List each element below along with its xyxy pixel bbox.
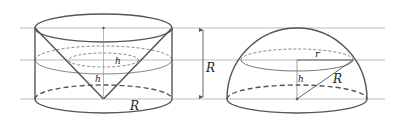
- slant-radius-line: [297, 60, 353, 99]
- hemisphere-center: [296, 98, 298, 100]
- label-slant-R: R: [332, 72, 342, 86]
- diagram-canvas: h h R R r h R: [0, 0, 404, 130]
- cylinder-top-center: [103, 27, 105, 29]
- hemisphere-base-front-arc: [227, 99, 367, 113]
- cone-left-edge: [35, 28, 104, 99]
- guide-lines: [20, 28, 385, 99]
- cylinder-figure: [35, 14, 172, 113]
- label-height-R: R: [205, 61, 215, 75]
- label-h-lower: h: [95, 74, 101, 84]
- cylinder-bottom-front-arc: [35, 99, 172, 113]
- hemisphere-section-back-arc: [241, 49, 353, 60]
- label-hemisphere-h: h: [298, 74, 304, 84]
- hemisphere-figure: [227, 28, 367, 113]
- cone-right-edge: [104, 28, 173, 99]
- diagram-svg: h h R R r h R: [0, 0, 404, 130]
- label-cylinder-radius: R: [129, 99, 139, 113]
- label-h-upper: h: [115, 56, 121, 66]
